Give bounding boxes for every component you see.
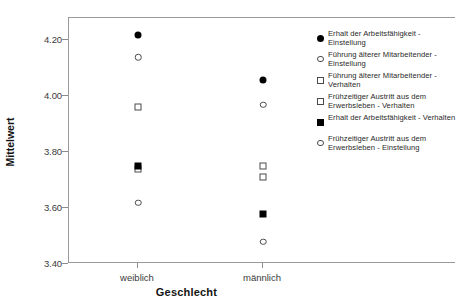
data-point [260, 101, 267, 108]
legend-item: Führung älterer Mitarbeitender - Verhalt… [314, 70, 459, 90]
data-point [260, 238, 267, 245]
marker-glyph [317, 77, 324, 84]
y-axis-tick-label: 3.80 [22, 146, 62, 157]
data-point [260, 174, 267, 181]
data-point [135, 163, 142, 170]
data-point [135, 54, 142, 61]
data-point [260, 163, 267, 170]
plot-area [68, 17, 305, 263]
data-point [260, 76, 267, 83]
y-axis-tick-label: 4.20 [22, 34, 62, 45]
legend-item-label: Erhalt der Arbeitsfähigkeit - Einstellun… [328, 28, 459, 48]
y-axis-title: Mittelwert [2, 72, 18, 212]
legend-item: Erhalt der Arbeitsfähigkeit - Verhalten [314, 112, 459, 132]
legend-item: Frühzeitiger Austritt aus dem Erwerbsleb… [314, 91, 459, 111]
y-axis-tick-label: 3.40 [22, 258, 62, 269]
legend-marker-square-open-icon [314, 91, 327, 111]
legend-marker-square-open-icon [314, 70, 327, 90]
scatter-chart-figure: Mittelwert 3.403.603.804.004.20 weiblich… [0, 0, 461, 304]
y-axis-tick-mark [62, 263, 68, 264]
legend-item-label: Führung älterer Mitarbeitender - Einstel… [328, 49, 459, 69]
x-axis-tick-label: männlich [243, 272, 281, 283]
marker-glyph [317, 35, 324, 42]
data-point [260, 210, 267, 217]
chart-legend: Erhalt der Arbeitsfähigkeit - Einstellun… [314, 28, 459, 154]
bottom-axis-extension [305, 262, 455, 263]
legend-marker-square-filled-icon [314, 112, 327, 132]
data-point [135, 199, 142, 206]
legend-item: Führung älterer Mitarbeitender - Einstel… [314, 49, 459, 69]
data-point [135, 31, 142, 38]
legend-item-label: Führung älterer Mitarbeitender - Verhalt… [328, 70, 459, 90]
marker-glyph [317, 98, 324, 105]
x-axis-tick-mark [262, 263, 263, 268]
legend-marker-circle-open-icon [314, 133, 327, 153]
legend-marker-circle-filled-icon [314, 28, 327, 48]
top-axis-extension [305, 17, 455, 18]
x-axis-title: Geschlecht [68, 286, 305, 298]
marker-glyph [317, 119, 324, 126]
marker-glyph [317, 56, 324, 63]
legend-item-label: Erhalt der Arbeitsfähigkeit - Verhalten [328, 112, 455, 122]
legend-item: Erhalt der Arbeitsfähigkeit - Einstellun… [314, 28, 459, 48]
legend-item: Frühzeitiger Austritt aus dem Erwerbsleb… [314, 133, 459, 153]
y-axis-tick-labels: 3.403.603.804.004.20 [20, 0, 62, 304]
legend-item-label: Frühzeitiger Austritt aus dem Erwerbsleb… [328, 133, 459, 153]
y-axis-tick-label: 3.60 [22, 202, 62, 213]
legend-item-label: Frühzeitiger Austritt aus dem Erwerbsleb… [328, 91, 459, 111]
y-axis-title-text: Mittelwert [4, 117, 16, 166]
marker-glyph [317, 140, 324, 147]
x-axis-tick-label: weiblich [120, 272, 154, 283]
y-axis-tick-label: 4.00 [22, 90, 62, 101]
legend-marker-circle-open-icon [314, 49, 327, 69]
data-point [135, 104, 142, 111]
x-axis-tick-mark [137, 263, 138, 268]
